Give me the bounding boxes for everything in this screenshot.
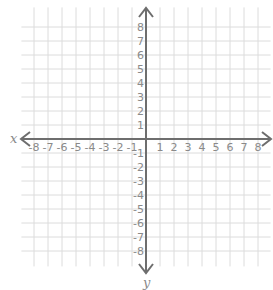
y-tick-label: 8 — [137, 21, 144, 34]
x-tick-label: -6 — [57, 141, 68, 154]
x-tick-label: -4 — [85, 141, 96, 154]
y-axis-label: y — [142, 275, 151, 290]
x-tick-label: -3 — [99, 141, 110, 154]
y-tick-label: 2 — [137, 105, 144, 118]
x-tick-label: -2 — [113, 141, 124, 154]
y-tick-label: 4 — [137, 77, 144, 90]
x-tick-label: -5 — [71, 141, 82, 154]
x-tick-label: 2 — [171, 141, 178, 154]
x-axis-label: x — [10, 131, 18, 146]
y-tick-label: 6 — [137, 49, 144, 62]
y-tick-label: 5 — [137, 63, 144, 76]
coordinate-plane: -8-7-6-5-4-3-2-112345678 87654321-1-2-3-… — [0, 0, 273, 290]
y-tick-label: -6 — [133, 217, 144, 230]
x-tick-label: 6 — [227, 141, 234, 154]
x-tick-label: 7 — [241, 141, 248, 154]
y-tick-label: 1 — [137, 119, 144, 132]
y-tick-label: 7 — [137, 35, 144, 48]
x-tick-label: 4 — [199, 141, 206, 154]
x-tick-label: 5 — [213, 141, 220, 154]
y-tick-label: -5 — [133, 203, 144, 216]
y-tick-label: -1 — [133, 147, 144, 160]
x-tick-label: -8 — [29, 141, 40, 154]
x-tick-label: 8 — [255, 141, 262, 154]
y-tick-label: -8 — [133, 245, 144, 258]
y-tick-label: -2 — [133, 161, 144, 174]
x-tick-label: 1 — [157, 141, 164, 154]
x-tick-label: 3 — [185, 141, 192, 154]
x-tick-label: -7 — [43, 141, 54, 154]
y-tick-label: -4 — [133, 189, 144, 202]
y-tick-label: 3 — [137, 91, 144, 104]
y-tick-label: -3 — [133, 175, 144, 188]
y-tick-label: -7 — [133, 231, 144, 244]
